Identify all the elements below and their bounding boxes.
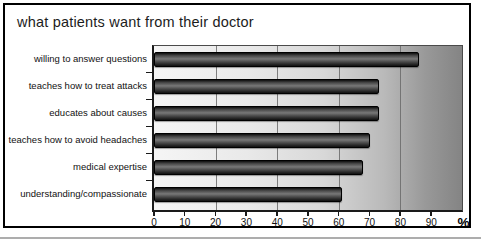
x-tick-label-50: 50 <box>302 217 313 228</box>
percent-axis-label: % <box>458 215 470 230</box>
gridline-60 <box>339 46 340 210</box>
x-tick-label-20: 20 <box>210 217 221 228</box>
bar-5 <box>154 187 342 202</box>
chart-frame: what patients want from their doctor wil… <box>3 3 471 228</box>
bar-2 <box>154 106 379 121</box>
y-tick-mark <box>146 99 153 100</box>
category-label-1: teaches how to treat attacks <box>9 72 147 99</box>
chart-title: what patients want from their doctor <box>17 14 254 30</box>
plot-area <box>152 45 463 212</box>
bar-1 <box>154 79 379 94</box>
y-tick-mark <box>146 180 153 181</box>
category-label-3: teaches how to avoid headaches <box>9 126 147 153</box>
gridline-20 <box>216 46 217 210</box>
x-tick-label-60: 60 <box>333 217 344 228</box>
category-label-5: understanding/compassionate <box>9 180 147 207</box>
scan-artifact-line <box>0 237 481 239</box>
x-tick-label-40: 40 <box>272 217 283 228</box>
bar-4 <box>154 160 363 175</box>
y-tick-mark <box>146 126 153 127</box>
category-label-2: educates about causes <box>9 99 147 126</box>
gridline-80 <box>400 46 401 210</box>
x-tick-label-70: 70 <box>364 217 375 228</box>
y-tick-mark <box>146 153 153 154</box>
category-label-4: medical expertise <box>9 153 147 180</box>
value-axis: 0102030405060708090% <box>152 216 463 232</box>
gridline-40 <box>277 46 278 210</box>
category-axis: willing to answer questionsteaches how t… <box>9 45 147 207</box>
x-tick-label-10: 10 <box>179 217 190 228</box>
y-tick-mark <box>146 72 153 73</box>
bar-3 <box>154 133 370 148</box>
x-tick-label-30: 30 <box>241 217 252 228</box>
x-tick-label-90: 90 <box>426 217 437 228</box>
bar-0 <box>154 52 419 67</box>
chart-figure: what patients want from their doctor wil… <box>0 0 481 239</box>
x-tick-label-80: 80 <box>395 217 406 228</box>
category-label-0: willing to answer questions <box>9 45 147 72</box>
x-tick-label-0: 0 <box>151 217 157 228</box>
